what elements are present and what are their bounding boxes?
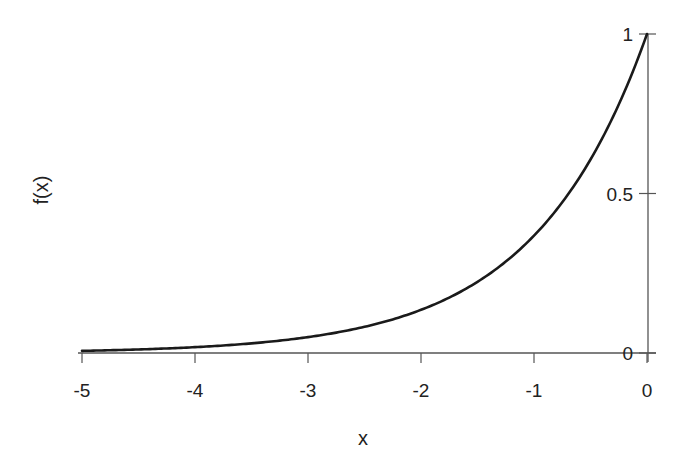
x-axis-title: x [358,427,368,449]
x-tick-label: -5 [74,380,91,401]
y-tick-label: 0 [622,343,633,364]
axes [78,34,656,362]
exponential-chart: -5-4-3-2-1000.51 x f(x) [0,0,680,465]
y-tick-label: 0.5 [607,184,633,205]
x-tick-label: -1 [526,380,543,401]
ticks [82,34,656,363]
x-tick-label: -3 [300,380,317,401]
x-tick-label: -2 [413,380,430,401]
tick-labels: -5-4-3-2-1000.51 [74,24,653,401]
x-tick-label: 0 [642,380,653,401]
y-axis-title: f(x) [30,176,52,205]
x-tick-label: -4 [187,380,204,401]
y-tick-label: 1 [622,24,633,45]
function-curve [82,34,647,351]
